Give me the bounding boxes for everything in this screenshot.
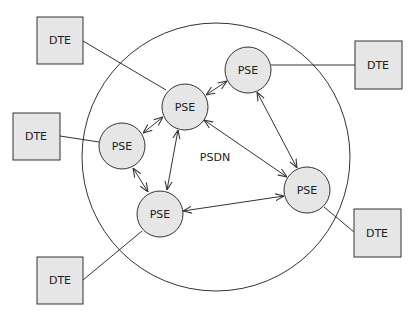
link-dte-left bbox=[60, 136, 99, 142]
dte-bottom-left: DTE bbox=[37, 257, 83, 304]
pse-bottom: PSE bbox=[137, 191, 183, 237]
link-dte-bottom-left bbox=[83, 231, 142, 280]
link-topright-right bbox=[257, 92, 297, 168]
link-left-bottom bbox=[133, 168, 148, 192]
link-bottom-right bbox=[183, 196, 284, 211]
pse-top-right: PSE bbox=[225, 47, 271, 93]
pse-label: PSE bbox=[150, 208, 171, 221]
dte-left: DTE bbox=[13, 113, 60, 160]
dte-label: DTE bbox=[366, 227, 388, 240]
network-diagram: DTE DTE DTE DTE DTE PSE PSE PSE PSE PSE … bbox=[0, 0, 416, 329]
pse-label: PSE bbox=[238, 64, 259, 77]
link-center-right bbox=[204, 120, 287, 177]
psdn-label: PSDN bbox=[200, 151, 230, 164]
pse-right: PSE bbox=[284, 167, 330, 213]
pse-left: PSE bbox=[99, 123, 145, 169]
link-center-topright bbox=[206, 81, 227, 95]
pse-label: PSE bbox=[175, 101, 196, 114]
dte-label: DTE bbox=[25, 130, 47, 143]
dte-top-left: DTE bbox=[37, 17, 83, 64]
dte-bottom-right: DTE bbox=[354, 209, 401, 257]
link-center-left bbox=[143, 117, 163, 133]
dte-label: DTE bbox=[367, 59, 389, 72]
pse-label: PSE bbox=[297, 184, 318, 197]
dte-top-right: DTE bbox=[355, 41, 402, 89]
link-center-bottom bbox=[167, 130, 178, 190]
pse-center: PSE bbox=[162, 84, 208, 130]
dte-label: DTE bbox=[49, 274, 71, 287]
link-dte-top-left bbox=[83, 41, 166, 90]
pse-label: PSE bbox=[112, 140, 133, 153]
dte-label: DTE bbox=[49, 34, 71, 47]
